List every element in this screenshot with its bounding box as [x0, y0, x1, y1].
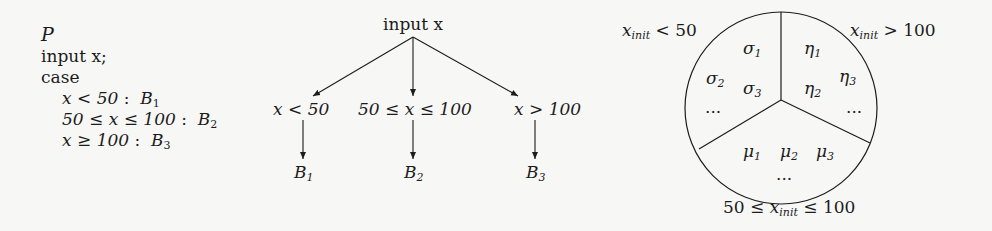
region-sigma-ellipsis: ···	[705, 102, 721, 122]
tree-arrows	[303, 37, 535, 159]
leaf-label: B	[526, 162, 539, 182]
sym: σ	[743, 38, 755, 58]
sym: σ	[743, 78, 755, 98]
region-eta-ellipsis: ···	[846, 102, 862, 122]
region-mu-3: μ3	[816, 141, 834, 161]
sym: σ	[706, 68, 718, 88]
tree-branch-middle: 50 ≤ x ≤ 100	[358, 99, 472, 119]
tree-leaf-b1: B1	[294, 162, 314, 182]
sym: η	[839, 66, 849, 86]
label-rel: < 50	[650, 20, 697, 40]
sub: 2	[791, 150, 798, 163]
sub: 2	[814, 87, 821, 100]
leaf-sub: 1	[307, 171, 314, 184]
label-rel: ≤ 100	[798, 197, 856, 217]
tree-root: input x	[383, 14, 443, 34]
label-sub: init	[779, 206, 798, 219]
partition-label-right: xinit > 100	[850, 20, 936, 40]
label-rel: > 100	[878, 20, 936, 40]
sym: η	[804, 78, 814, 98]
sym: μ	[743, 141, 754, 161]
label-pre: 50 ≤	[723, 197, 770, 217]
tree-leaf-b2: B2	[404, 162, 424, 182]
label-var: x	[770, 197, 780, 217]
region-eta-1: η1	[804, 38, 821, 58]
leaf-label: B	[294, 162, 307, 182]
arrow-root-to-left	[313, 37, 413, 96]
sym: η	[804, 38, 814, 58]
sub: 2	[718, 77, 725, 90]
region-sigma-1: σ1	[743, 38, 762, 58]
region-mu-ellipsis: ···	[776, 169, 792, 189]
tree-leaf-b3: B3	[526, 162, 546, 182]
sub: 1	[755, 47, 762, 60]
sub: 3	[849, 75, 856, 88]
leaf-label: B	[404, 162, 417, 182]
partition-label-left: xinit < 50	[622, 20, 697, 40]
tree-branch-right: x > 100	[514, 99, 581, 119]
region-mu-2: μ2	[780, 141, 798, 161]
sub: 1	[814, 47, 821, 60]
region-eta-3: η3	[839, 66, 856, 86]
region-sigma-3: σ3	[743, 78, 762, 98]
label-sub: init	[632, 29, 651, 42]
leaf-sub: 3	[539, 171, 546, 184]
label-var: x	[850, 20, 860, 40]
arrow-root-to-right	[413, 37, 518, 96]
sub: 1	[754, 150, 761, 163]
leaf-sub: 2	[417, 171, 424, 184]
sym: μ	[816, 141, 827, 161]
sym: μ	[780, 141, 791, 161]
label-sub: init	[860, 29, 879, 42]
region-sigma-2: σ2	[706, 68, 725, 88]
tree-branch-left: x < 50	[273, 99, 329, 119]
partition-label-bottom: 50 ≤ xinit ≤ 100	[723, 197, 855, 217]
region-mu-1: μ1	[743, 141, 761, 161]
sub: 3	[827, 150, 834, 163]
region-eta-2: η2	[804, 78, 821, 98]
sub: 3	[755, 87, 762, 100]
label-var: x	[622, 20, 632, 40]
